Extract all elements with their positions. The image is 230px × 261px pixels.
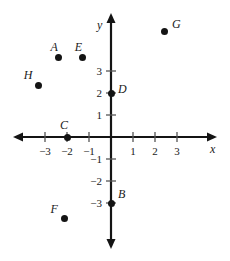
y-tick-label-2: −1 (90, 154, 102, 165)
x-axis-label: x (210, 143, 215, 155)
y-axis-arrow-down (107, 239, 116, 249)
y-axis-arrow-up (107, 13, 116, 23)
point-label-d: D (118, 83, 127, 95)
point-label-c: C (60, 119, 68, 131)
point-label-b: B (118, 188, 125, 200)
x-axis-arrow-right (207, 133, 217, 142)
point-label-f: F (50, 203, 57, 215)
data-point-a[interactable] (55, 54, 62, 61)
axes-svg (0, 0, 230, 261)
y-tick-label-5: 3 (97, 66, 103, 77)
y-axis-label: y (97, 19, 102, 31)
data-point-c[interactable] (64, 134, 71, 141)
x-tick-label-5: 3 (174, 146, 180, 157)
y-tick-label-1: −2 (90, 176, 102, 187)
point-label-h: H (24, 69, 33, 81)
y-tick-label-0: −3 (90, 198, 102, 209)
x-axis-group (13, 132, 217, 142)
x-tick-label-4: 2 (152, 146, 158, 157)
y-axis-group (106, 13, 116, 249)
point-label-g: G (172, 18, 181, 30)
x-tick-label-0: −3 (39, 146, 51, 157)
y-tick-label-4: 2 (97, 88, 103, 99)
x-tick-label-1: −2 (61, 146, 73, 157)
x-axis-arrow-left (13, 133, 23, 142)
y-tick-label-3: 1 (97, 110, 103, 121)
point-label-a: A (51, 41, 58, 53)
data-point-h[interactable] (35, 82, 42, 89)
data-point-d[interactable] (108, 90, 115, 97)
point-label-e: E (75, 41, 82, 53)
x-tick-label-3: 1 (130, 146, 136, 157)
coordinate-plane: x y −3−2−1123−3−2−1123 ABCDEFGH (0, 0, 230, 261)
data-point-b[interactable] (108, 200, 115, 207)
